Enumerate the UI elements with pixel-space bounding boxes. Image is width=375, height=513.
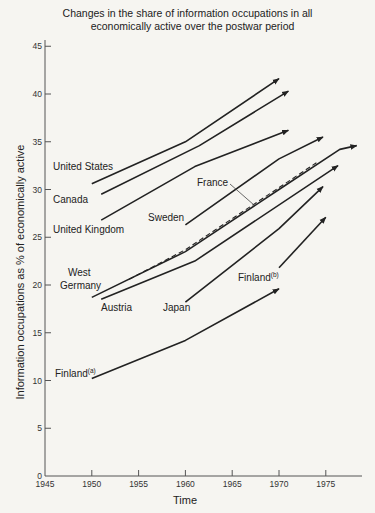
series-label-united-states: United States <box>53 161 113 172</box>
series-labels: United StatesCanadaUnited KingdomSwedenW… <box>53 161 279 379</box>
y-tick-label: 35 <box>33 137 43 147</box>
y-tick-label: 25 <box>33 232 43 242</box>
label-leader-line <box>230 184 254 205</box>
y-tick-label: 10 <box>33 376 43 386</box>
series-label-west-germany: Germany <box>60 280 101 291</box>
x-axis-label: Time <box>173 494 197 506</box>
series-label-japan: Japan <box>163 302 190 313</box>
series-label-west-germany: West <box>68 267 91 278</box>
y-tick-label: 45 <box>33 41 43 51</box>
x-tick-label: 1975 <box>316 479 335 489</box>
y-tick-label: 30 <box>33 185 43 195</box>
y-axis-label: Information occupations as % of economic… <box>14 145 26 400</box>
x-tick-label: 1955 <box>129 479 148 489</box>
series-label-united-kingdom: United Kingdom <box>53 224 124 235</box>
series-line-united-kingdom <box>101 130 288 220</box>
series-label-sweden: Sweden <box>148 212 184 223</box>
y-tick-label: 20 <box>33 280 43 290</box>
x-tick-label: 1965 <box>223 479 242 489</box>
x-tick-label: 1960 <box>176 479 195 489</box>
x-tick-label: 1950 <box>82 479 101 489</box>
y-tick-label: 40 <box>33 89 43 99</box>
series-label-finland-a: Finland(a) <box>55 367 96 379</box>
x-tick-label: 1945 <box>36 479 55 489</box>
series-label-austria: Austria <box>101 302 133 313</box>
series-line-finland-b <box>279 217 326 268</box>
y-tick-label: 15 <box>33 328 43 338</box>
series-label-canada: Canada <box>53 194 88 205</box>
series-line-west-germany <box>92 146 357 298</box>
series-label-finland-b: Finland(b) <box>238 271 279 283</box>
line-chart: 0510152025303540451945195019551960196519… <box>0 0 375 513</box>
x-tick-label: 1970 <box>270 479 289 489</box>
series-line-united-states <box>92 79 279 184</box>
y-tick-label: 5 <box>37 423 42 433</box>
axes: 0510152025303540451945195019551960196519… <box>33 40 362 489</box>
series-label-france: France <box>197 177 229 188</box>
series-group <box>92 79 357 379</box>
series-line-canada <box>101 91 288 194</box>
